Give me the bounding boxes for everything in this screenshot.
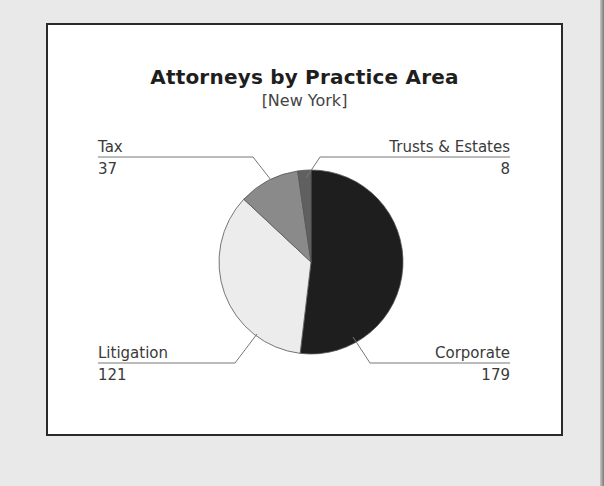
label-trusts-name: Trusts & Estates (389, 138, 510, 156)
label-litigation-value: 121 (98, 366, 127, 384)
leader-line-tax (98, 157, 271, 180)
label-corporate-name: Corporate (435, 344, 510, 362)
pie-slice-corporate (300, 170, 403, 354)
label-corporate-value: 179 (481, 366, 510, 384)
pie-slices (219, 170, 403, 354)
label-trusts-value: 8 (500, 160, 510, 178)
pie-chart (0, 0, 604, 486)
label-litigation-name: Litigation (98, 344, 168, 362)
label-tax-name: Tax (98, 138, 123, 156)
label-tax-value: 37 (98, 160, 117, 178)
